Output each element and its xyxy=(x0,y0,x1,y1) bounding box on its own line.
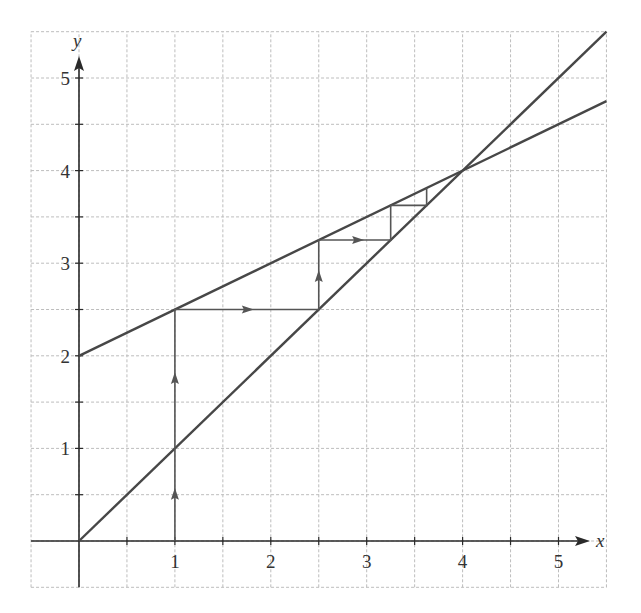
line-y-equals-x xyxy=(79,32,606,541)
line-y-equals-half-x-plus-2 xyxy=(79,101,606,356)
curves xyxy=(79,32,606,541)
y-tick-label: 4 xyxy=(61,161,71,182)
x-tick-label: 5 xyxy=(554,551,564,572)
x-tick-label: 3 xyxy=(362,551,372,572)
x-tick-label: 4 xyxy=(458,551,468,572)
y-axis-label: y xyxy=(71,30,82,51)
x-axis-label: x xyxy=(595,530,605,551)
y-tick-label: 5 xyxy=(61,68,71,89)
cobweb-diagram: 1234512345xy xyxy=(0,0,641,613)
y-tick-label: 3 xyxy=(61,253,71,274)
x-tick-label: 1 xyxy=(170,551,180,572)
y-tick-label: 2 xyxy=(61,346,71,367)
plot-area: 1234512345xy xyxy=(0,0,641,613)
y-tick-label: 1 xyxy=(61,438,71,459)
x-tick-label: 2 xyxy=(266,551,276,572)
